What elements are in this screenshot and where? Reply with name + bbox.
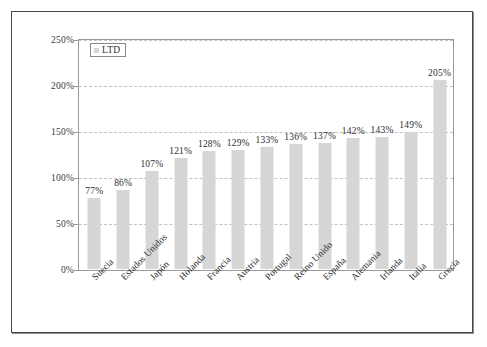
bar-slot: 205% bbox=[425, 41, 454, 269]
bar-value-label: 133% bbox=[256, 135, 279, 145]
bar-value-label: 137% bbox=[313, 131, 336, 141]
bar-value-label: 143% bbox=[371, 125, 394, 135]
plot-area: 77%86%107%121%128%129%133%136%137%142%14… bbox=[78, 39, 454, 271]
bar-slot: 121% bbox=[166, 41, 195, 269]
y-axis-tick-label: 200% bbox=[12, 81, 74, 91]
x-axis-tick: Holanda bbox=[164, 272, 193, 332]
figure-container: 0%50%100%150%200%250% 77%86%107%121%128%… bbox=[0, 0, 487, 347]
bar[interactable] bbox=[289, 144, 302, 269]
bar-slot: 149% bbox=[396, 41, 425, 269]
y-axis: 0%50%100%150%200%250% bbox=[12, 39, 74, 271]
y-axis-tick-label: 150% bbox=[12, 127, 74, 137]
bar[interactable] bbox=[88, 198, 101, 269]
bar[interactable] bbox=[232, 150, 245, 269]
bar[interactable] bbox=[203, 151, 216, 269]
bar-slot: 133% bbox=[253, 41, 282, 269]
bar[interactable] bbox=[433, 80, 446, 269]
x-axis-tick: Austria bbox=[222, 272, 251, 332]
bar[interactable] bbox=[347, 138, 360, 269]
y-axis-tick-label: 0% bbox=[12, 265, 74, 275]
legend-label-ltd: LTD bbox=[102, 45, 120, 55]
x-axis-tick: Francia bbox=[193, 272, 222, 332]
y-axis-tick-label: 100% bbox=[12, 173, 74, 183]
bar[interactable] bbox=[260, 147, 273, 269]
bar-value-label: 136% bbox=[284, 132, 307, 142]
x-axis-tick: Reino Unido bbox=[279, 272, 308, 332]
x-axis-tick: Japón bbox=[136, 272, 165, 332]
bar-value-label: 142% bbox=[342, 126, 365, 136]
legend-swatch-ltd bbox=[94, 48, 99, 53]
bar-value-label: 86% bbox=[114, 178, 132, 188]
y-axis-tick-label: 50% bbox=[12, 219, 74, 229]
bar-value-label: 77% bbox=[85, 186, 103, 196]
bar-value-label: 107% bbox=[140, 159, 163, 169]
bar-value-label: 121% bbox=[169, 146, 192, 156]
y-axis-tick-label: 250% bbox=[12, 35, 74, 45]
bar-slot: 137% bbox=[310, 41, 339, 269]
bar[interactable] bbox=[117, 190, 130, 269]
bar-slot: 128% bbox=[195, 41, 224, 269]
x-axis-tick: Italia bbox=[394, 272, 423, 332]
bar-slot: 77% bbox=[80, 41, 109, 269]
bars-layer: 77%86%107%121%128%129%133%136%137%142%14… bbox=[80, 41, 452, 269]
bar[interactable] bbox=[174, 158, 187, 269]
x-axis-tick: España bbox=[308, 272, 337, 332]
bar-value-label: 128% bbox=[198, 139, 221, 149]
x-axis-tick: Irlanda bbox=[366, 272, 395, 332]
x-axis-tick: Estados Unidos bbox=[107, 272, 136, 332]
bar-slot: 143% bbox=[368, 41, 397, 269]
x-axis-tick: Suecia bbox=[78, 272, 107, 332]
bar-value-label: 129% bbox=[227, 138, 250, 148]
x-axis: SueciaEstados UnidosJapónHolandaFranciaA… bbox=[78, 272, 454, 332]
chart-legend[interactable]: LTD bbox=[90, 43, 126, 57]
bar[interactable] bbox=[404, 132, 417, 269]
bar-slot: 129% bbox=[224, 41, 253, 269]
x-axis-tick: Portugal bbox=[251, 272, 280, 332]
bar-slot: 136% bbox=[281, 41, 310, 269]
figure-frame: 0%50%100%150%200%250% 77%86%107%121%128%… bbox=[11, 11, 473, 333]
bar-value-label: 149% bbox=[399, 120, 422, 130]
bar-value-label: 205% bbox=[428, 68, 451, 78]
x-axis-tick: Alemania bbox=[337, 272, 366, 332]
chart-canvas: 0%50%100%150%200%250% 77%86%107%121%128%… bbox=[12, 12, 472, 332]
bar-slot: 142% bbox=[339, 41, 368, 269]
bar-slot: 86% bbox=[109, 41, 138, 269]
x-axis-tick: Grecia bbox=[423, 272, 452, 332]
